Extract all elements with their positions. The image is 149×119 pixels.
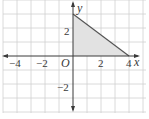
y-tick-label: −2 xyxy=(57,81,69,93)
x-tick-label: 4 xyxy=(126,57,132,69)
y-axis-label: y xyxy=(76,1,83,15)
x-tick-label: −4 xyxy=(9,57,21,69)
coordinate-plane: y x O −4 −2 2 4 2 −2 xyxy=(0,0,149,119)
x-axis-label: x xyxy=(133,55,140,69)
y-axis-up-arrow-icon xyxy=(71,1,75,7)
x-tick-label: −2 xyxy=(36,57,48,69)
y-axis-down-arrow-icon xyxy=(71,106,75,112)
origin-label: O xyxy=(61,56,70,70)
x-tick-label: 2 xyxy=(98,57,104,69)
y-tick-label: 2 xyxy=(64,25,70,37)
